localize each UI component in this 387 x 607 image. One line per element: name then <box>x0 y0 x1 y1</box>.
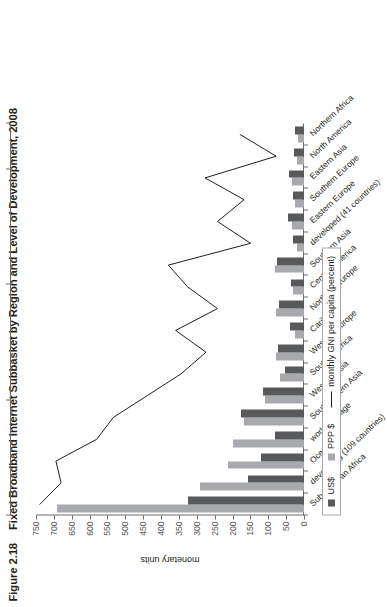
y-tick <box>107 515 108 519</box>
y-tick <box>304 515 305 519</box>
ppp-swatch-icon <box>328 453 335 460</box>
x-tick <box>304 187 308 188</box>
legend-label-ppp: PPP $ <box>326 423 336 448</box>
y-axis-title: monetary units <box>140 554 199 564</box>
plot-area: monetary units 7507006506005505004504003… <box>36 123 304 515</box>
legend-item-usd: US$ <box>326 476 336 506</box>
y-tick <box>268 515 269 519</box>
y-tick <box>197 515 198 519</box>
y-tick <box>286 515 287 519</box>
x-tick <box>304 514 308 515</box>
y-tick <box>215 515 216 519</box>
y-tick-label: 350 <box>174 521 184 535</box>
y-tick-label: 100 <box>263 521 273 535</box>
x-tick <box>304 318 308 319</box>
x-tick <box>304 166 308 167</box>
y-tick-label: 150 <box>245 521 255 535</box>
legend-label-gni: monthly GNI per capita (percent) <box>326 256 336 387</box>
y-tick-label: 50 <box>281 521 291 531</box>
legend-item-ppp: PPP $ <box>326 423 336 460</box>
x-tick <box>304 231 308 232</box>
legend-label-usd: US$ <box>326 476 336 494</box>
y-tick <box>250 515 251 519</box>
x-tick <box>304 209 308 210</box>
usd-swatch-icon <box>328 499 335 506</box>
gni-line-series <box>10 123 304 515</box>
y-tick-label: 400 <box>156 521 166 535</box>
y-tick-label: 200 <box>228 521 238 535</box>
legend-item-gni-line: monthly GNI per capita (percent) <box>326 256 336 408</box>
y-tick-label: 550 <box>102 521 112 535</box>
y-tick-label: 450 <box>138 521 148 535</box>
x-tick <box>304 340 308 341</box>
y-tick <box>143 515 144 519</box>
y-tick-label: 0 <box>299 521 309 526</box>
y-tick-label: 650 <box>67 521 77 535</box>
y-tick-label: 700 <box>49 521 59 535</box>
y-tick <box>125 515 126 519</box>
y-tick <box>179 515 180 519</box>
y-tick <box>36 515 37 519</box>
y-tick <box>90 515 91 519</box>
y-tick-label: 750 <box>31 521 41 535</box>
x-tick <box>304 362 308 363</box>
x-tick <box>304 405 308 406</box>
y-tick <box>233 515 234 519</box>
x-tick <box>304 253 308 254</box>
figure-number: Figure 2.18 <box>7 542 19 601</box>
y-tick <box>72 515 73 519</box>
y-tick-label: 300 <box>192 521 202 535</box>
x-tick <box>304 449 308 450</box>
gni-line-path <box>40 134 277 504</box>
x-tick <box>304 492 308 493</box>
y-tick-label: 250 <box>210 521 220 535</box>
x-tick <box>304 296 308 297</box>
x-tick <box>304 274 308 275</box>
y-tick <box>54 515 55 519</box>
y-tick <box>161 515 162 519</box>
legend: US$ PPP $ monthly GNI per capita (percen… <box>322 247 341 515</box>
x-tick <box>304 427 308 428</box>
y-tick-label: 600 <box>85 521 95 535</box>
line-swatch-icon <box>331 391 332 407</box>
y-tick-label: 500 <box>120 521 130 535</box>
x-tick <box>304 470 308 471</box>
x-tick <box>304 144 308 145</box>
x-tick <box>304 383 308 384</box>
